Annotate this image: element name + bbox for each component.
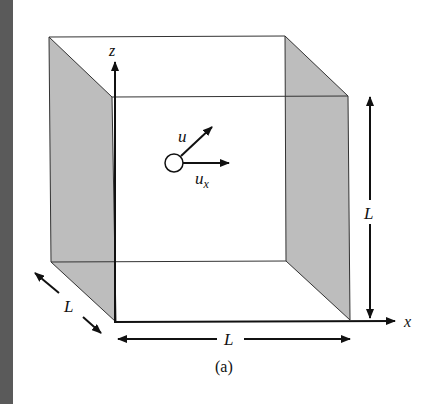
x-axis-label: x [403, 313, 411, 330]
right-wall-shaded [285, 36, 350, 320]
cube-diagram: z x u ux L L L (a) [0, 0, 436, 404]
x-axis [114, 321, 395, 322]
z-axis-label: z [108, 42, 116, 59]
figure-caption: (a) [215, 358, 233, 376]
particle [165, 154, 183, 172]
depth-dimension-label: L [63, 297, 73, 316]
width-dimension-label: L [223, 330, 233, 349]
velocity-label-ux: ux [195, 169, 210, 191]
depth-dimension-arrow-down [83, 317, 101, 333]
back-top-edge [49, 36, 285, 37]
velocity-label-u: u [178, 127, 187, 146]
height-dimension-label: L [363, 204, 373, 223]
left-wall-shaded [49, 37, 116, 322]
depth-dimension-arrow-up [35, 273, 59, 293]
